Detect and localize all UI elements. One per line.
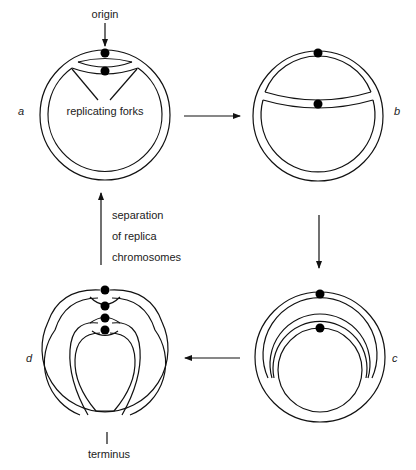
stage-b-outer-strand (253, 51, 383, 181)
stage-d-dot-2 (101, 302, 110, 311)
stage-a-bubble-mid (78, 62, 132, 67)
stage-b-new-origin-dot (314, 100, 323, 109)
stage-a-diagram: origin replicating forks a (18, 8, 170, 180)
stage-d-dot-1 (101, 286, 110, 295)
stage-b-diagram: b (253, 49, 400, 182)
stage-a-inner-strand (48, 68, 162, 171)
replication-diagram: origin replicating forks a b c (0, 0, 416, 470)
stage-label-d: d (26, 352, 33, 364)
stage-c-diagram: c (255, 290, 398, 423)
stage-b-origin-dot (314, 49, 323, 58)
origin-label: origin (92, 8, 119, 20)
separation-label-line1: separation (112, 209, 163, 221)
stage-a-bubble-top (78, 59, 132, 63)
replicating-forks-label: replicating forks (66, 105, 144, 117)
stage-b-inner-top-strand (265, 56, 371, 92)
stage-label-c: c (392, 352, 398, 364)
stage-d-diagram: d terminus (26, 286, 168, 461)
stage-d-strand-3-left (70, 323, 98, 415)
stage-c-inner-strand (263, 298, 377, 378)
stage-a-new-origin-dot (101, 67, 110, 76)
stage-a-origin-dot (101, 49, 110, 58)
stage-d-strand-3-right (112, 323, 140, 415)
stage-c-new-origin-dot (316, 324, 325, 333)
stage-d-inner-strand (75, 333, 135, 411)
stage-d-strand-2-left (44, 298, 98, 415)
stage-b-inner-bottom-strand (261, 100, 375, 172)
stage-d-strand-2-right (112, 298, 166, 415)
stage-label-a: a (18, 105, 24, 117)
stage-b-replica-top (265, 92, 371, 100)
terminus-label: terminus (88, 448, 131, 460)
separation-label-line2: of replica (112, 230, 158, 242)
stage-d-dot-4 (101, 326, 110, 335)
separation-label-line3: chromosomes (112, 251, 182, 263)
stage-label-b: b (394, 105, 400, 117)
stage-d-dot-3 (101, 314, 110, 323)
stage-c-origin-dot (316, 290, 325, 299)
stage-c-replica-inner (278, 328, 362, 412)
